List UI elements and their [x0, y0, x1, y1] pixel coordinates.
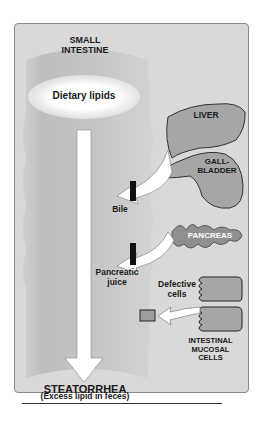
label-line: INTESTINE — [55, 45, 115, 55]
label-line: SMALL — [55, 35, 115, 45]
diagram-canvas — [0, 0, 263, 432]
label-line: CELLS — [178, 354, 243, 363]
gallbladder-label: GALL- BLADDER — [192, 157, 242, 175]
label-line: GALL- — [192, 157, 242, 166]
label-line: juice — [92, 278, 142, 288]
bile-block-icon — [130, 181, 136, 201]
defective-cells-arrow — [158, 307, 200, 325]
bottom-rule — [22, 403, 222, 404]
mucosal-cell-lower — [199, 307, 242, 331]
bile-label: Bile — [105, 205, 135, 215]
defective-cells-label: Defective cells — [152, 280, 202, 300]
steatorrhea-subtitle: (Excess lipid in feces) — [20, 392, 150, 402]
pancreatic-block-icon — [130, 243, 136, 265]
pancreatic-juice-label: Pancreatic juice — [92, 268, 142, 288]
liver-label: LIVER — [186, 111, 226, 121]
small-intestine-label: SMALL INTESTINE — [55, 35, 115, 56]
label-line: BLADDER — [192, 166, 242, 175]
defective-cell-box — [140, 310, 155, 321]
mucosal-cell-upper — [199, 277, 242, 301]
dietary-lipids-label: Dietary lipids — [38, 90, 130, 102]
mucosal-cells-label: INTESTINAL MUCOSAL CELLS — [178, 337, 243, 363]
pancreas-label: PANCREAS — [180, 231, 240, 240]
label-line: cells — [152, 290, 202, 300]
